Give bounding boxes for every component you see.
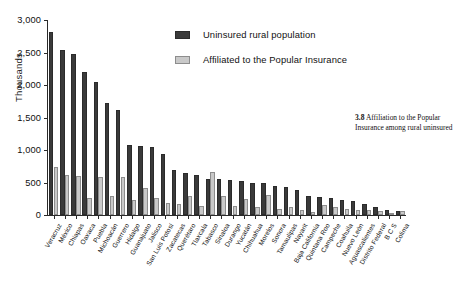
bar-uninsured-rural-population[interactable] — [82, 72, 86, 215]
x-axis-tick-mark — [311, 215, 312, 219]
x-axis-tick-mark — [165, 215, 166, 219]
bar-affiliated-popular-insurance[interactable] — [333, 207, 337, 215]
x-axis-tick-mark — [367, 215, 368, 219]
legend-swatch-dark-icon — [175, 31, 190, 39]
y-axis-tick-label: 2,500 — [17, 48, 41, 58]
bar-affiliated-popular-insurance[interactable] — [54, 167, 58, 215]
bar-affiliated-popular-insurance[interactable] — [154, 198, 158, 215]
bar-affiliated-popular-insurance[interactable] — [322, 205, 326, 215]
x-axis-tick-mark — [76, 215, 77, 219]
bar-affiliated-popular-insurance[interactable] — [98, 177, 102, 215]
bar-affiliated-popular-insurance[interactable] — [110, 196, 114, 216]
legend-item-label: Affiliated to the Popular Insurance — [203, 54, 347, 65]
bar-group[interactable] — [161, 20, 171, 215]
bar-affiliated-popular-insurance[interactable] — [221, 196, 225, 215]
bar-group[interactable] — [150, 20, 160, 215]
bar-group[interactable] — [71, 20, 81, 215]
figure-caption-number: 3.8 — [355, 113, 365, 122]
y-axis-tick-label: 2,000 — [17, 80, 41, 90]
x-axis-tick-mark — [177, 215, 178, 219]
y-axis-tick-labels: 05001,0001,5002,0002,5003,000 — [0, 0, 48, 288]
legend-swatch-light-icon — [175, 56, 190, 64]
figure-caption-text: Affiliation to the Popular Insurance amo… — [355, 113, 452, 132]
x-axis-tick-mark — [300, 215, 301, 219]
y-axis-tick-label: 500 — [25, 178, 41, 188]
bar-affiliated-popular-insurance[interactable] — [188, 196, 192, 216]
bar-group[interactable] — [138, 20, 148, 215]
bar-affiliated-popular-insurance[interactable] — [65, 175, 69, 215]
bar-affiliated-popular-insurance[interactable] — [199, 206, 203, 215]
x-axis-tick-mark — [221, 215, 222, 219]
x-axis-tick-mark — [199, 215, 200, 219]
bar-group[interactable] — [82, 20, 92, 215]
x-axis-tick-mark — [210, 215, 211, 219]
bar-affiliated-popular-insurance[interactable] — [210, 172, 214, 215]
x-axis-tick-mark — [154, 215, 155, 219]
bar-affiliated-popular-insurance[interactable] — [177, 204, 181, 215]
x-axis-tick-mark — [255, 215, 256, 219]
x-axis-tick-mark — [322, 215, 323, 219]
bar-affiliated-popular-insurance[interactable] — [289, 207, 293, 215]
bar-group[interactable] — [116, 20, 126, 215]
x-axis-tick-mark — [98, 215, 99, 219]
x-axis-tick-mark — [356, 215, 357, 219]
x-axis-tick-mark — [378, 215, 379, 219]
x-axis-tick-mark — [143, 215, 144, 219]
legend-item-label: Uninsured rural population — [203, 29, 316, 40]
x-axis-tick-mark — [121, 215, 122, 219]
bar-group[interactable] — [94, 20, 104, 215]
bar-group[interactable] — [105, 20, 115, 215]
bar-group[interactable] — [49, 20, 59, 215]
bar-group[interactable] — [60, 20, 70, 215]
y-axis-tick-label: 3,000 — [17, 15, 41, 25]
chart-figure: Thousands 05001,0001,5002,0002,5003,000 … — [0, 0, 459, 288]
x-axis-tick-mark — [65, 215, 66, 219]
y-axis-tick-label: 1,000 — [17, 145, 41, 155]
bar-affiliated-popular-insurance[interactable] — [76, 176, 80, 215]
bar-affiliated-popular-insurance[interactable] — [266, 195, 270, 215]
x-axis-tick-mark — [110, 215, 111, 219]
x-axis-tick-mark — [389, 215, 390, 219]
x-axis-tick-mark — [266, 215, 267, 219]
legend-item[interactable]: Uninsured rural population — [175, 26, 347, 43]
y-axis-tick-label: 1,500 — [17, 113, 41, 123]
bar-group[interactable] — [127, 20, 137, 215]
chart-legend: Uninsured rural population Affiliated to… — [175, 26, 347, 76]
bar-affiliated-popular-insurance[interactable] — [143, 188, 147, 215]
figure-caption: 3.8 Affiliation to the Popular Insurance… — [355, 113, 455, 132]
x-axis-tick-mark — [87, 215, 88, 219]
x-axis-tick-mark — [188, 215, 189, 219]
bar-affiliated-popular-insurance[interactable] — [233, 206, 237, 215]
legend-item[interactable]: Affiliated to the Popular Insurance — [175, 51, 347, 68]
bar-affiliated-popular-insurance[interactable] — [255, 207, 259, 215]
bar-affiliated-popular-insurance[interactable] — [87, 198, 91, 215]
bar-affiliated-popular-insurance[interactable] — [166, 203, 170, 215]
bar-affiliated-popular-insurance[interactable] — [121, 177, 125, 215]
x-axis-tick-mark — [277, 215, 278, 219]
x-axis-tick-mark — [132, 215, 133, 219]
x-axis-tick-mark — [289, 215, 290, 219]
bar-affiliated-popular-insurance[interactable] — [132, 200, 136, 215]
x-axis-tick-mark — [54, 215, 55, 219]
bar-affiliated-popular-insurance[interactable] — [244, 199, 248, 215]
x-axis-tick-mark — [233, 215, 234, 219]
y-axis-tick-label: 0 — [36, 210, 41, 220]
x-axis-tick-mark — [333, 215, 334, 219]
x-axis-line — [47, 215, 406, 216]
x-axis-tick-mark — [244, 215, 245, 219]
x-axis-tick-mark — [400, 215, 401, 219]
x-axis-tick-mark — [344, 215, 345, 219]
